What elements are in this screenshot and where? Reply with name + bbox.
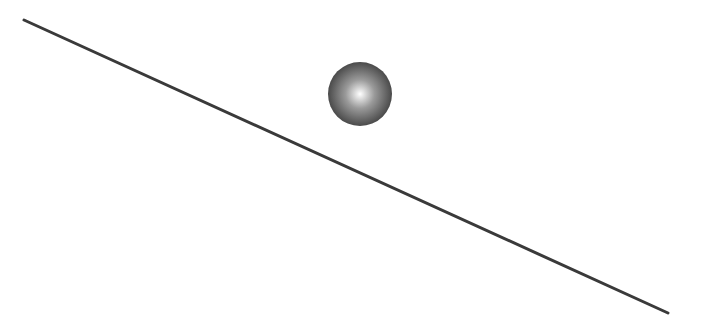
inclined-plane-diagram [0, 0, 705, 330]
inclined-line [24, 20, 668, 313]
ball-sphere [328, 62, 392, 126]
